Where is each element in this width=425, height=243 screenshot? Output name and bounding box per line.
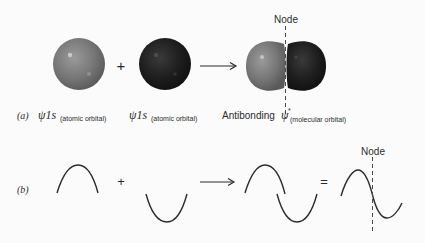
right-lobe (287, 41, 327, 91)
combined-trough (277, 194, 317, 222)
atomic-orbital-sphere-2 (139, 38, 191, 90)
plus-sign-a: + (117, 57, 126, 74)
orbital-1-subscript: (atomic orbital) (60, 115, 106, 123)
result-sine-wave (341, 170, 402, 218)
left-lobe (246, 41, 286, 91)
part-b-label: (b) (17, 184, 29, 196)
plus-sign-b: + (117, 174, 125, 189)
orbital-2-label: ψ1s (atomic orbital) (129, 108, 197, 123)
combined-crest (245, 165, 285, 194)
orbital-1-label: ψ1s (atomic orbital) (38, 108, 106, 123)
antibonding-orbital-figure: + Node (a) ψ1s (atomic orbital) (0, 0, 425, 243)
orbital-2-subscript: (atomic orbital) (151, 115, 197, 123)
orbital-1-symbol: ψ1s (38, 108, 56, 122)
orbital-2-symbol: ψ1s (129, 108, 147, 122)
part-a: + Node (a) ψ1s (atomic orbital) (17, 14, 346, 124)
equals-sign: = (320, 174, 328, 189)
antibonding-prefix: Antibonding (222, 110, 275, 121)
arrow-right-icon (200, 63, 236, 70)
arrow-right-icon-b (200, 179, 234, 186)
part-b: (b) + = Node (17, 146, 402, 233)
node-label-a: Node (274, 14, 298, 25)
node-label-b: Node (361, 146, 385, 157)
atomic-orbital-sphere-1 (53, 38, 105, 90)
wave-crest (57, 165, 98, 193)
part-a-label: (a) (17, 110, 29, 122)
antibonding-subscript: (molecular orbital) (290, 116, 346, 124)
antibonding-star: * (288, 107, 291, 114)
wave-trough (146, 194, 187, 222)
antibonding-label: Antibonding ψ * (molecular orbital) (222, 107, 346, 124)
